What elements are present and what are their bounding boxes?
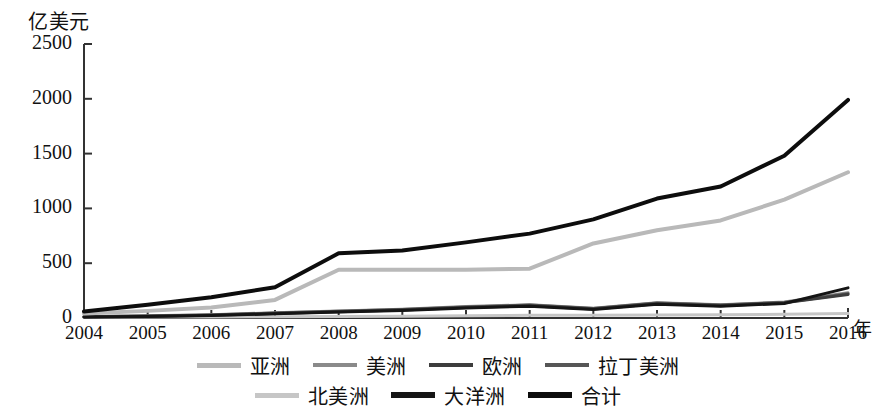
- chart-legend: 亚洲美洲欧洲拉丁美洲北美洲大洋洲合计: [0, 350, 876, 410]
- legend-item-亚洲[interactable]: 亚洲: [197, 351, 291, 380]
- legend-label: 亚洲: [250, 351, 291, 380]
- legend-swatch-icon: [391, 392, 435, 398]
- legend-swatch-icon: [528, 392, 572, 398]
- legend-item-美洲[interactable]: 美洲: [313, 351, 407, 380]
- legend-label: 大洋洲: [444, 381, 506, 410]
- legend-label: 合计: [581, 381, 622, 410]
- legend-item-大洋洲[interactable]: 大洋洲: [391, 381, 506, 410]
- legend-label: 美洲: [366, 351, 407, 380]
- legend-row: 亚洲美洲欧洲拉丁美洲: [0, 350, 876, 380]
- legend-swatch-icon: [197, 363, 241, 368]
- legend-label: 欧洲: [482, 351, 523, 380]
- legend-swatch-icon: [545, 363, 589, 367]
- legend-item-北美洲[interactable]: 北美洲: [255, 381, 370, 410]
- legend-swatch-icon: [313, 363, 357, 367]
- legend-item-合计[interactable]: 合计: [528, 381, 622, 410]
- legend-label: 拉丁美洲: [598, 351, 680, 380]
- legend-swatch-icon: [429, 363, 473, 367]
- series-line-合计: [84, 100, 848, 312]
- legend-label: 北美洲: [308, 381, 370, 410]
- legend-row: 北美洲大洋洲合计: [0, 380, 876, 410]
- legend-swatch-icon: [255, 393, 299, 398]
- line-chart-figure: 亿美元 年 25002000150010005000 2004200520062…: [0, 0, 876, 411]
- legend-item-拉丁美洲[interactable]: 拉丁美洲: [545, 351, 680, 380]
- legend-item-欧洲[interactable]: 欧洲: [429, 351, 523, 380]
